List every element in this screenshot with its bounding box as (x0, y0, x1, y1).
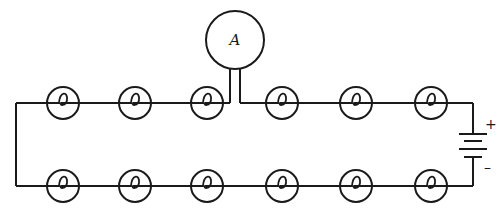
bulb-icon (191, 87, 223, 119)
bulb-icon (119, 87, 151, 119)
battery-negative-label: – (484, 159, 491, 175)
bulb-icon (47, 87, 79, 119)
wires (16, 69, 473, 186)
bulb-icon (266, 170, 298, 202)
bulb-icon (415, 170, 447, 202)
bulb-icon (266, 87, 298, 119)
circuit-diagram: A (0, 0, 501, 213)
battery-positive-label: + (485, 116, 497, 132)
bulb-icon (340, 87, 372, 119)
bulb-icon (119, 170, 151, 202)
battery-icon: + – (459, 116, 497, 175)
bulb-icon (340, 170, 372, 202)
ammeter: A (206, 11, 264, 69)
bulb-icon (415, 87, 447, 119)
ammeter-label: A (228, 31, 241, 49)
bulb-icon (47, 170, 79, 202)
bulb-icon (191, 170, 223, 202)
